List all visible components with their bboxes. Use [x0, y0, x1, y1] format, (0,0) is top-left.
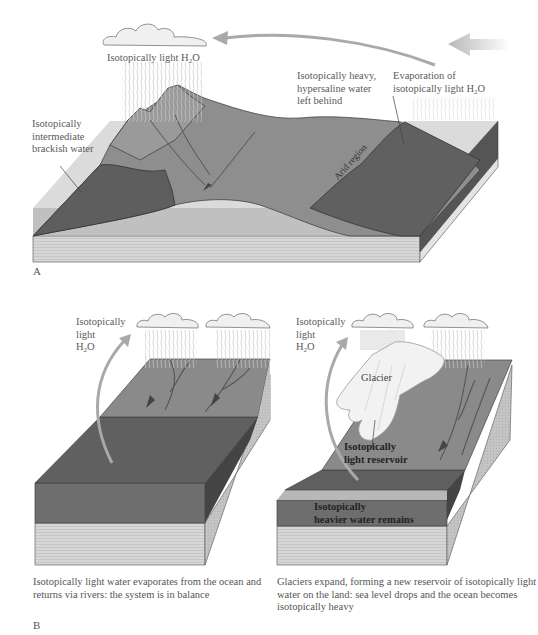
heavier-water-label: Isotopically heavier water remains: [314, 501, 414, 526]
label-line: light: [76, 329, 126, 342]
label-line: Isotopically: [32, 118, 94, 131]
cloud-icon: [206, 313, 270, 328]
panel-b-left-block: [35, 359, 270, 565]
label-text: O: [478, 83, 486, 94]
light-reservoir-label: Isotopically light reservoir: [344, 441, 408, 466]
vapor-transport-arrowhead: [212, 31, 228, 45]
label-line: intermediate: [32, 131, 94, 144]
brackish-water-label: Isotopically intermediate brackish water: [32, 118, 94, 156]
sediment-front-face: [35, 523, 205, 565]
label-line: Isotopically: [296, 316, 346, 329]
label-line: Evaporation of: [393, 70, 485, 83]
cloud-panel-a: [103, 24, 206, 122]
label-line: Isotopically: [76, 316, 126, 329]
caption-right: Glaciers expand, forming a new reservoir…: [277, 576, 537, 614]
light-h2o-label-right: Isotopically light H2O: [296, 316, 346, 354]
cloud-icon: [103, 24, 206, 46]
ocean-surface: [285, 470, 465, 490]
label-line: isotopically light H2O: [393, 83, 485, 96]
label-line: Isotopically: [314, 501, 414, 514]
hypersaline-water-label: Isotopically heavy, hypersaline water le…: [297, 70, 376, 108]
cloud-label-text: Isotopically light H: [107, 52, 189, 63]
exposed-shelf: [277, 490, 447, 500]
rain-streaks: [215, 330, 270, 368]
caption-left: Isotopically light water evaporates from…: [33, 576, 283, 601]
label-text: O: [87, 341, 95, 352]
label-line: H2O: [76, 341, 126, 354]
panel-label-b: B: [33, 619, 40, 631]
glacier-label: Glacier: [361, 372, 392, 385]
label-line: left behind: [297, 95, 376, 108]
label-text: O: [307, 341, 315, 352]
sediment-front-face: [33, 236, 420, 262]
cloud-icon: [424, 313, 488, 328]
label-line: light: [296, 329, 346, 342]
cloud-icon: [352, 313, 413, 328]
evaporation-label: Evaporation of isotopically light H2O: [393, 70, 485, 95]
light-h2o-label-left: Isotopically light H2O: [76, 316, 126, 354]
rain-streaks: [145, 330, 197, 368]
cloud-icon: [137, 313, 198, 328]
label-text: H: [296, 341, 304, 352]
panel-label-a: A: [33, 265, 41, 277]
label-line: brackish water: [32, 143, 94, 156]
label-line: light reservoir: [344, 454, 408, 467]
label-line: heavier water remains: [314, 514, 414, 527]
label-line: H2O: [296, 341, 346, 354]
cloud-label-a: Isotopically light H2O: [107, 52, 200, 65]
evaporation-streaks: [412, 98, 496, 120]
label-text: H: [76, 341, 84, 352]
label-line: hypersaline water: [297, 83, 376, 96]
vapor-transport-arrow: [225, 35, 435, 65]
label-text: isotopically light H: [393, 83, 474, 94]
label-line: Isotopically heavy,: [297, 70, 376, 83]
label-line: Isotopically: [344, 441, 408, 454]
rain-streaks: [122, 62, 202, 122]
cloud-label-text: O: [192, 52, 200, 63]
sediment-front-face: [277, 526, 447, 565]
ocean-front-face: [35, 483, 205, 523]
incoming-vapor-arrow: [448, 33, 510, 56]
